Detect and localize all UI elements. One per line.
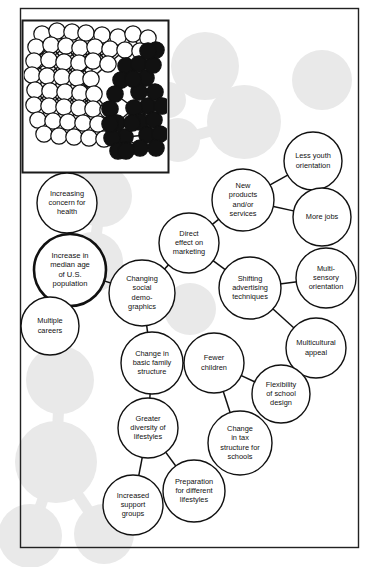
inset-node-filled [102,116,118,132]
inset-node-open [102,41,118,57]
concept-edge-new-products-services-to-less-youth-orientation [269,175,288,186]
inset-node-open [75,115,91,131]
inset-node-open [41,98,57,114]
ghost-node [207,85,281,159]
inset-node-filled [140,43,156,59]
inset-node-filled [125,71,141,87]
network-cluster-inset [23,21,171,173]
ghost-node [292,50,352,110]
concept-node-direct-effect-marketing[interactable]: Directeffect onmarketing [159,213,219,273]
inset-node-open [60,114,76,130]
concept-edge-direct-effect-marketing-to-shifting-advertising-techniques [212,260,226,270]
ghost-node [26,346,94,414]
concept-edge-shifting-advertising-techniques-to-multi-sensory-orientation [280,282,298,284]
inset-node-open [39,68,55,84]
inset-node-open [43,37,59,53]
concept-node-greater-diversity-lifestyles[interactable]: Greaterdiversity oflifestyles [118,398,178,458]
concept-node-new-products-services[interactable]: Newproductsand/orservices [212,169,274,231]
ghost-node [0,504,62,567]
concept-node-more-jobs[interactable]: More jobs [293,188,351,246]
concept-edge-fewer-children-to-change-tax-structure-schools [223,391,230,414]
inset-node-open [100,56,116,72]
inset-node-open [56,54,72,70]
concept-map-figure: Increasingconcern forhealthIncrease inme… [0,0,373,567]
concept-edge-new-products-services-to-more-jobs [272,206,294,211]
inset-node-open [56,99,72,115]
inset-node-open [125,26,141,42]
concept-node-multiple-careers[interactable]: Multiplecareers [21,297,79,355]
inset-node-open [85,101,101,117]
node-label: Multiplecareers [37,316,62,334]
ghost-node [15,421,97,503]
node-label: Change inbasic familystructure [133,349,172,376]
inset-node-open [57,84,73,100]
concept-map-canvas: Increasingconcern forhealthIncrease inme… [0,0,373,567]
node-label: More jobs [306,212,339,221]
inset-node-open [78,25,94,41]
concept-node-increased-support-groups[interactable]: Increasedsupportgroups [103,475,163,535]
inset-node-open [66,129,82,145]
concept-edge-fewer-children-to-flexibility-school-design [240,375,255,382]
concept-node-increasing-concern-health[interactable]: Increasingconcern forhealth [37,173,97,233]
node-label: Less youthorientation [295,151,331,169]
concept-node-fewer-children[interactable]: Fewerchildren [184,333,244,393]
inset-node-filled [148,140,164,156]
concept-node-change-tax-structure-schools[interactable]: Changein taxstructure forschools [208,411,272,475]
inset-node-open [51,128,67,144]
concept-node-changing-social-demographics[interactable]: Changingsocialdemo-graphics [109,260,175,326]
concept-node-change-basic-family-structure[interactable]: Change inbasic familystructure [121,332,183,394]
inset-node-open [36,126,52,142]
inset-node-open [81,130,97,146]
inset-node-open [86,86,102,102]
concept-node-shifting-advertising-techniques[interactable]: Shiftingadvertisingtechniques [219,257,281,319]
inset-node-open [72,40,88,56]
inset-node-filled [107,86,123,102]
inset-node-open [27,82,43,98]
inset-node-open [54,69,70,85]
inset-node-open [117,42,133,58]
concept-edge-greater-diversity-lifestyles-to-preparation-different-lifestyles [165,451,176,466]
inset-node-open [85,53,101,69]
node-label: Preparationfor differentlifestyles [175,477,213,504]
inset-node-open [83,71,99,87]
inset-node-open [26,97,42,113]
concept-node-flexibility-school-design[interactable]: Flexibilityof schooldesign [252,365,310,423]
inset-node-open [42,83,58,99]
concept-node-multi-sensory-orientation[interactable]: Multi-sensoryorientation [296,248,356,308]
concept-edge-greater-diversity-lifestyles-to-increased-support-groups [139,456,143,476]
inset-node-open [41,52,57,68]
concept-node-less-youth-orientation[interactable]: Less youthorientation [284,132,342,190]
concept-edge-shifting-advertising-techniques-to-multicultural-appeal [272,308,294,328]
inset-node-filled [124,115,140,131]
concept-node-increase-median-age[interactable]: Increase inmedian ageof U.S.population [34,234,106,306]
node-label: Fewerchildren [201,353,227,371]
concept-node-preparation-different-lifestyles[interactable]: Preparationfor differentlifestyles [163,460,225,522]
inset-node-open [24,67,40,83]
inset-node-filled [118,143,134,159]
